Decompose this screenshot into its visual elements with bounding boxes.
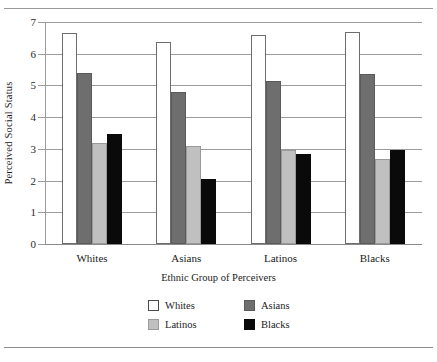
- bar-whites-latinos: [92, 143, 107, 244]
- y-axis-spine: [45, 22, 46, 244]
- y-tick-label-5: 5: [31, 80, 46, 91]
- bar-whites-asians: [77, 73, 92, 244]
- x-tick-label-latinos: Latinos: [264, 252, 297, 264]
- bar-blacks-asians: [360, 74, 375, 244]
- y-tick-label-1: 1: [31, 207, 46, 218]
- bar-latinos-blacks: [296, 154, 311, 244]
- cut-off-title-strip: [0, 0, 437, 8]
- legend-swatch-blacks-icon: [244, 319, 255, 330]
- plot-area: 01234567: [45, 22, 422, 244]
- legend-label-blacks: Blacks: [261, 319, 290, 330]
- y-tick-label-2: 2: [31, 175, 46, 186]
- y-tick-label-6: 6: [31, 48, 46, 59]
- chart-legend: WhitesAsiansLatinosBlacks: [148, 300, 348, 338]
- top-horizontal-rule: [4, 8, 433, 9]
- y-axis-title: Perceived Social Status: [3, 81, 14, 184]
- legend-swatch-whites-icon: [148, 300, 159, 311]
- legend-item-latinos: Latinos: [148, 319, 244, 330]
- bar-whites-whites: [62, 33, 77, 244]
- bar-group-asians: [156, 22, 216, 244]
- y-tick-label-4: 4: [31, 112, 46, 123]
- legend-swatch-latinos-icon: [148, 319, 159, 330]
- legend-row: WhitesAsians: [148, 300, 348, 311]
- bar-asians-asians: [171, 92, 186, 244]
- legend-swatch-asians-icon: [244, 300, 255, 311]
- legend-label-latinos: Latinos: [165, 319, 197, 330]
- bar-asians-latinos: [186, 146, 201, 244]
- legend-row: LatinosBlacks: [148, 319, 348, 330]
- figure-panel: Perceived Social Status 01234567 Ethnic …: [0, 0, 437, 362]
- y-tick-label-3: 3: [31, 143, 46, 154]
- x-tick-label-whites: Whites: [76, 252, 107, 264]
- y-tick-label-7: 7: [31, 17, 46, 28]
- x-axis-title: Ethnic Group of Perceivers: [0, 272, 437, 283]
- bottom-horizontal-rule: [4, 347, 433, 348]
- bar-whites-blacks: [107, 134, 122, 244]
- bar-latinos-latinos: [281, 150, 296, 244]
- bar-asians-whites: [156, 42, 171, 244]
- bar-asians-blacks: [201, 179, 216, 244]
- legend-label-whites: Whites: [165, 300, 195, 311]
- gridline-y-0: [45, 244, 422, 245]
- x-tick-label-asians: Asians: [171, 252, 201, 264]
- bar-blacks-blacks: [390, 150, 405, 244]
- bar-group-blacks: [345, 22, 405, 244]
- x-tick-label-blacks: Blacks: [360, 252, 390, 264]
- bar-group-whites: [62, 22, 122, 244]
- bar-latinos-asians: [266, 81, 281, 244]
- bar-blacks-latinos: [375, 159, 390, 244]
- legend-item-asians: Asians: [244, 300, 340, 311]
- legend-item-whites: Whites: [148, 300, 244, 311]
- y-tick-label-0: 0: [31, 239, 46, 250]
- legend-label-asians: Asians: [261, 300, 290, 311]
- bar-blacks-whites: [345, 32, 360, 244]
- legend-item-blacks: Blacks: [244, 319, 340, 330]
- bar-latinos-whites: [251, 35, 266, 244]
- bar-group-latinos: [251, 22, 311, 244]
